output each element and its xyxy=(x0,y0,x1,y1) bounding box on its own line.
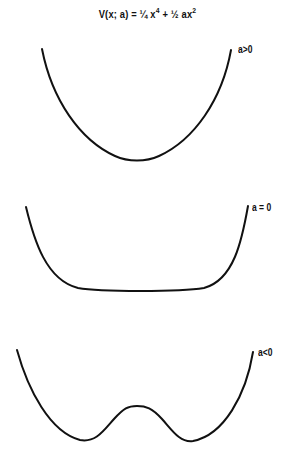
potential-curves xyxy=(0,0,295,453)
curve-a-negative xyxy=(17,350,253,441)
curve-a-zero xyxy=(26,206,248,291)
label-a-negative: a<0 xyxy=(258,347,272,358)
label-a-zero: a = 0 xyxy=(252,202,271,213)
curve-a-positive xyxy=(42,49,231,161)
label-a-positive: a>0 xyxy=(238,44,252,55)
